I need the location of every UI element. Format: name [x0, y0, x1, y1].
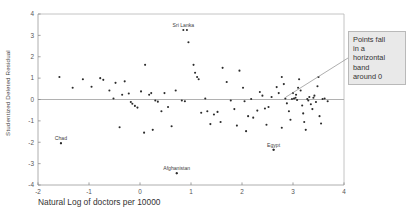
data-point [220, 121, 222, 123]
data-point [302, 112, 304, 114]
callout-line-4: band [353, 63, 401, 72]
data-point [102, 79, 104, 81]
y-tick-label: 4 [30, 10, 34, 17]
callout-line-1: Points fall [353, 35, 401, 44]
data-point [310, 103, 312, 105]
data-point [58, 76, 60, 78]
data-point [200, 112, 202, 114]
data-point [171, 125, 173, 127]
x-tick-label: 0 [138, 188, 142, 195]
data-point [154, 100, 156, 102]
data-point [305, 129, 307, 131]
data-point [209, 123, 211, 125]
x-tick-label: 3 [291, 188, 295, 195]
data-point [187, 41, 189, 43]
point-label: Afghanistan [163, 165, 190, 171]
data-point [318, 115, 320, 117]
data-point [327, 100, 329, 102]
data-point [124, 80, 126, 82]
x-tick-label: 2 [240, 188, 244, 195]
data-point [320, 122, 322, 124]
callout-line-5: around 0 [353, 72, 401, 81]
callout-line-2: in a [353, 44, 401, 53]
data-point [167, 106, 169, 108]
data-point [99, 77, 101, 79]
data-point [82, 78, 84, 80]
data-point [140, 90, 142, 92]
data-point [242, 87, 244, 89]
data-point [131, 103, 133, 105]
x-axis-title: Natural Log of doctors per 10000 [38, 197, 160, 207]
point-label: Sri Lanka [173, 22, 195, 28]
data-point [271, 96, 273, 98]
data-point [157, 101, 159, 103]
data-point [298, 78, 300, 80]
y-tick-label: -1 [28, 117, 34, 124]
data-point [198, 78, 200, 80]
data-point [244, 100, 246, 102]
data-point [283, 83, 285, 85]
point-label: Egypt [267, 142, 281, 148]
data-point [281, 127, 283, 129]
data-point [295, 97, 297, 99]
data-point [295, 94, 297, 96]
data-point [119, 126, 121, 128]
data-point [311, 108, 313, 110]
data-point [226, 81, 228, 83]
data-point [233, 108, 235, 110]
data-point [112, 97, 114, 99]
data-point [316, 85, 318, 87]
data-point [204, 97, 206, 99]
data-point-labeled [182, 29, 184, 31]
data-point [196, 76, 198, 78]
point-label: Chad [55, 135, 67, 141]
data-point [184, 100, 186, 102]
data-point [236, 125, 238, 127]
data-point [313, 95, 315, 97]
data-point [315, 101, 317, 103]
data-point [148, 94, 150, 96]
data-point [121, 94, 123, 96]
data-point [130, 101, 132, 103]
data-point [222, 67, 224, 69]
data-point [281, 76, 283, 78]
data-point [284, 97, 286, 99]
data-point [256, 110, 258, 112]
data-point [143, 132, 145, 134]
data-point [144, 64, 146, 66]
data-point [160, 110, 162, 112]
data-point [289, 119, 291, 121]
x-tick-label: -1 [86, 188, 92, 195]
data-point [91, 86, 93, 88]
data-point [301, 104, 303, 106]
data-point [296, 99, 298, 101]
data-point-labeled [176, 172, 178, 174]
data-point-labeled [60, 142, 62, 144]
data-point-labeled [273, 149, 275, 151]
y-axis-title-text: Studentized Deleted Residual [4, 38, 11, 148]
data-point [261, 95, 263, 97]
data-point [136, 107, 138, 109]
data-point [276, 86, 278, 88]
data-point [213, 113, 215, 115]
data-point [303, 121, 305, 123]
data-point [307, 100, 309, 102]
data-point [267, 106, 269, 108]
y-axis-title: Studentized Deleted Residual [4, 0, 11, 38]
data-point [230, 100, 232, 102]
data-point [238, 70, 240, 72]
data-point [245, 130, 247, 132]
data-point [194, 72, 196, 74]
data-point [291, 98, 293, 100]
data-point [152, 129, 154, 131]
data-point [134, 105, 136, 107]
data-point [297, 87, 299, 89]
point-annotations: Sri LankaChadAfghanistanEgypt [55, 22, 281, 174]
data-point [163, 92, 165, 94]
data-point [278, 92, 280, 94]
data-point [265, 124, 267, 126]
callout-leader-line [286, 58, 348, 97]
callout-line-3: horizontal [353, 53, 401, 62]
data-point [286, 102, 288, 104]
data-point [322, 98, 324, 100]
